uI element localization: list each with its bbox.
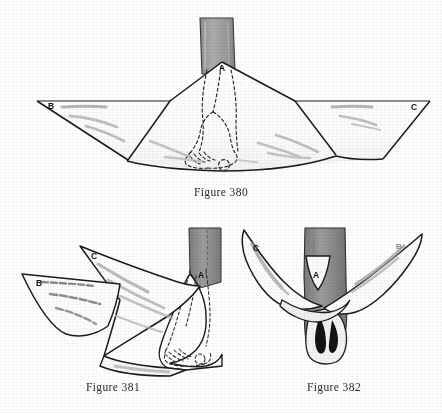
label-a: A xyxy=(313,270,319,280)
label-a: A xyxy=(198,270,204,280)
figure-381-caption: Figure 381 xyxy=(0,381,226,393)
figure-382: A C B xyxy=(226,216,442,378)
label-b: B xyxy=(48,101,54,111)
label-c: C xyxy=(253,243,259,253)
bandage-triangle xyxy=(37,62,430,171)
figure-381-drawing: B C A xyxy=(0,216,226,378)
label-b: B xyxy=(396,242,402,251)
figure-380-drawing: B C A • xyxy=(0,0,442,180)
figure-382-drawing: A C B xyxy=(226,216,442,378)
speck-mark: • xyxy=(297,100,299,106)
figure-382-caption: Figure 382 xyxy=(226,381,442,393)
figure-381: B C A xyxy=(0,216,226,378)
figure-380: B C A • xyxy=(0,0,442,180)
label-a: A xyxy=(219,63,225,73)
figure-380-caption: Figure 380 xyxy=(0,186,442,198)
label-b: B xyxy=(36,278,42,288)
illustration-page: B C A • Figure 380 xyxy=(0,0,442,413)
label-c: C xyxy=(411,102,417,112)
label-c: C xyxy=(91,251,97,261)
